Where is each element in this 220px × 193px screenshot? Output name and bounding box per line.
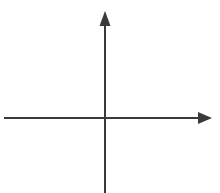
figure-background <box>0 0 220 193</box>
coordinate-axes-figure <box>0 0 220 193</box>
axes-svg-canvas <box>0 0 220 193</box>
